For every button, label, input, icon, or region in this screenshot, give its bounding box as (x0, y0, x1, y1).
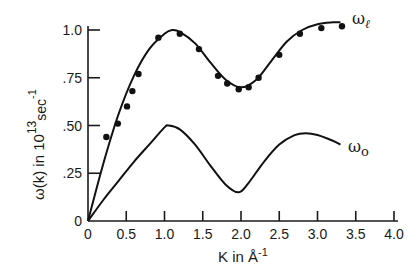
data-point (196, 46, 202, 52)
series-group (88, 22, 345, 221)
y-axis-label: ω(k) in 1013sec-1 (25, 89, 49, 200)
data-point (297, 31, 303, 37)
data-point (177, 31, 183, 37)
x-tick-label: 3.0 (308, 226, 328, 242)
x-ticks: 00.51.01.52.02.53.03.54.0 (84, 211, 404, 242)
series-label-omega-0: ωo (348, 137, 369, 159)
data-point (115, 120, 121, 126)
data-point (276, 52, 282, 58)
x-axis-label: K in Å-1 (218, 246, 268, 265)
x-tick-label: 0 (84, 226, 92, 242)
data-point (155, 34, 161, 40)
data-point (236, 86, 242, 92)
x-tick-label: 1.0 (155, 226, 175, 242)
data-point (103, 134, 109, 140)
x-tick-label: 2.0 (231, 226, 251, 242)
data-point (129, 88, 135, 94)
x-tick-label: 3.5 (346, 226, 366, 242)
data-point (135, 71, 141, 77)
omega-0-curve (88, 125, 340, 221)
dispersion-chart: 00.51.01.52.02.53.03.54.0 0.25.50.751.0 … (0, 0, 419, 269)
x-tick-label: 4.0 (384, 226, 404, 242)
series-label-omega-l: ωℓ (352, 9, 370, 31)
x-tick-label: 1.5 (193, 226, 213, 242)
axes (88, 26, 398, 221)
data-point (215, 73, 221, 79)
y-tick-label: 1.0 (63, 22, 83, 38)
omega-l-curve (88, 22, 340, 221)
y-tick-label: .50 (63, 118, 83, 134)
data-point (255, 75, 261, 81)
x-tick-label: 0.5 (117, 226, 137, 242)
data-point (318, 25, 324, 31)
y-tick-label: .75 (63, 70, 83, 86)
data-point (224, 80, 230, 86)
data-point (245, 84, 251, 90)
data-point (124, 103, 130, 109)
y-tick-label: .25 (63, 165, 83, 181)
x-tick-label: 2.5 (270, 226, 290, 242)
y-tick-label: 0 (74, 213, 82, 229)
data-point (339, 23, 345, 29)
